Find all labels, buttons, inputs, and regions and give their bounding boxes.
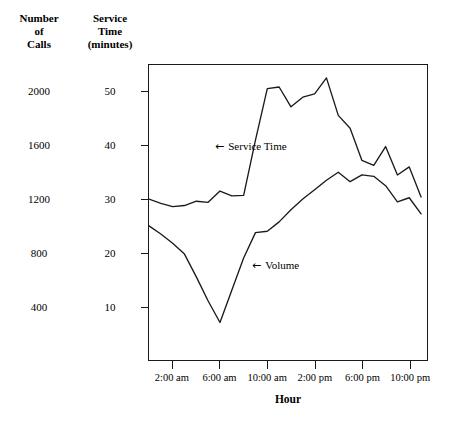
service-time-axis-title-line-1: Service xyxy=(72,12,148,25)
x-tick-label: 10:00 am xyxy=(247,372,286,384)
y-tick-calls: 2000 xyxy=(6,86,72,97)
y-tick-row: 2000 50 xyxy=(6,86,148,97)
left-arrow-icon: ← xyxy=(252,259,265,272)
y-tick-row: 1200 30 xyxy=(6,194,148,205)
x-tick-label: 10:00 pm xyxy=(390,372,430,384)
volume-annotation-text: Volume xyxy=(265,259,299,271)
y-tick-minutes: 10 xyxy=(72,302,148,313)
y-tick-row: 1600 40 xyxy=(6,140,148,151)
calls-axis-title-line-2: of xyxy=(6,25,72,38)
series-canvas xyxy=(149,65,427,360)
service-time-annotation: ←Service Time xyxy=(215,140,287,153)
x-tick-mark xyxy=(362,361,363,369)
calls-axis-title-line-1: Number xyxy=(6,12,72,25)
y-tick-minutes: 20 xyxy=(72,248,148,259)
x-tick-label: 2:00 am xyxy=(155,372,189,384)
y-tick-calls: 1200 xyxy=(6,194,72,205)
x-axis-title: Hour xyxy=(148,392,428,406)
service-time-annotation-text: Service Time xyxy=(228,140,286,152)
y-tick-minutes: 30 xyxy=(72,194,148,205)
x-tick-mark xyxy=(410,361,411,369)
calls-axis-title-line-3: Calls xyxy=(6,38,72,51)
y-tick-calls: 1600 xyxy=(6,140,72,151)
volume-line xyxy=(149,172,421,322)
chart-figure: Number of Calls Service Time (minutes) 2… xyxy=(0,0,459,422)
y-tick-minutes: 40 xyxy=(72,140,148,151)
x-tick-mark xyxy=(219,361,220,369)
x-tick-mark xyxy=(172,361,173,369)
x-tick-label: 6:00 am xyxy=(202,372,236,384)
service-time-axis-title: Service Time (minutes) xyxy=(72,12,148,51)
service-time-axis-title-line-3: (minutes) xyxy=(72,38,148,51)
service-time-axis-title-line-2: Time xyxy=(72,25,148,38)
x-tick-label: 6:00 pm xyxy=(345,372,380,384)
calls-axis-title: Number of Calls xyxy=(6,12,72,51)
volume-annotation: ←Volume xyxy=(252,259,299,272)
y-tick-calls: 400 xyxy=(6,302,72,313)
y-tick-minutes: 50 xyxy=(72,86,148,97)
y-tick-row: 800 20 xyxy=(6,248,148,259)
x-tick-mark xyxy=(267,361,268,369)
x-tick-label: 2:00 pm xyxy=(297,372,332,384)
plot-area xyxy=(148,64,428,361)
y-tick-row: 400 10 xyxy=(6,302,148,313)
left-arrow-icon: ← xyxy=(215,140,228,153)
x-tick-mark xyxy=(315,361,316,369)
y-tick-calls: 800 xyxy=(6,248,72,259)
